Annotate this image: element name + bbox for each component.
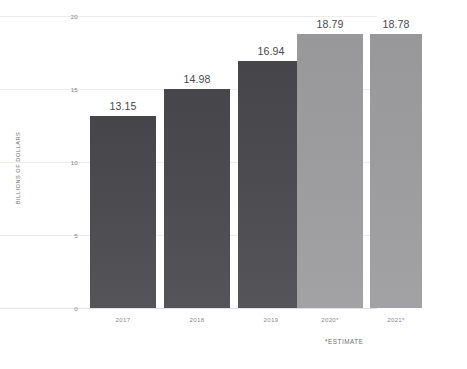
value-label-2019: 16.94	[238, 45, 304, 57]
bar-2018[interactable]	[164, 89, 230, 308]
x-tick-label-2018: 2018	[164, 316, 230, 324]
bar-2021[interactable]	[370, 34, 422, 308]
y-tick-label-5: 5	[44, 232, 78, 239]
value-label-2020: 18.79	[297, 18, 363, 30]
value-label-2017: 13.15	[90, 100, 156, 112]
bar-2020[interactable]	[297, 34, 363, 308]
y-tick-label-0: 0	[44, 305, 78, 312]
x-tick-label-2020: 2020*	[297, 316, 363, 324]
y-tick-label-15: 15	[44, 86, 78, 93]
plot-area	[90, 16, 422, 308]
value-label-2021: 18.78	[370, 18, 422, 30]
bar-2017[interactable]	[90, 116, 156, 308]
bar-2019[interactable]	[238, 61, 304, 308]
x-tick-label-2019: 2019	[238, 316, 304, 324]
bar-chart: BILLIONS OF DOLLARS 20 15 10 5 0 13.15 1…	[0, 0, 467, 369]
x-tick-label-2017: 2017	[90, 316, 156, 324]
x-tick-label-2021: 2021*	[370, 316, 422, 324]
y-axis-title: BILLIONS OF DOLLARS	[14, 108, 22, 228]
y-tick-label-10: 10	[44, 159, 78, 166]
estimate-footnote: *ESTIMATE	[325, 338, 363, 345]
y-tick-label-20: 20	[44, 13, 78, 20]
value-label-2018: 14.98	[164, 73, 230, 85]
